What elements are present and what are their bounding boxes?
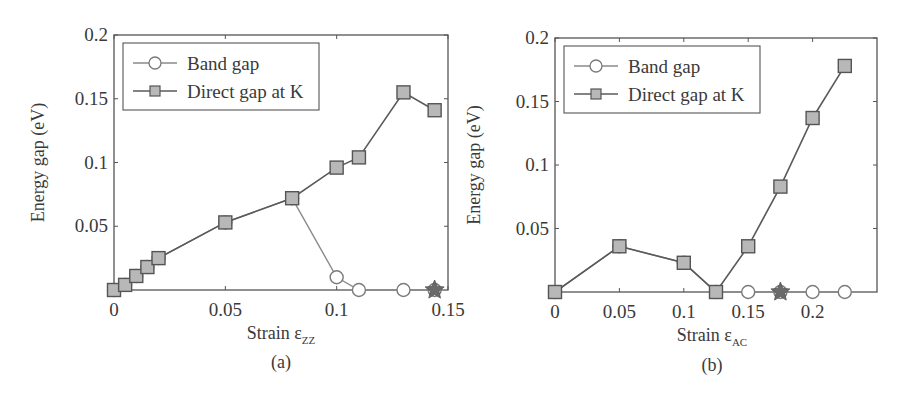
y-tick-label: 0.2: [84, 24, 108, 45]
chart-panel-a: 00.050.10.150.050.10.150.2Energy gap (eV…: [28, 24, 465, 373]
x-tick-label: 0.1: [325, 299, 349, 320]
legend-square-icon: [591, 89, 601, 99]
band-gap-point: [838, 286, 851, 299]
legend-label-direct-gap: Direct gap at K: [628, 84, 745, 105]
direct-gap-point: [838, 59, 851, 72]
direct-gap-point: [742, 240, 755, 253]
y-tick-label: 0.1: [84, 152, 108, 173]
y-tick-label: 0.05: [75, 215, 108, 236]
x-tick-label: 0.05: [603, 301, 636, 322]
x-tick-label: 0.1: [672, 301, 696, 322]
legend-label-direct-gap: Direct gap at K: [187, 81, 304, 102]
direct-gap-point: [549, 286, 562, 299]
direct-gap-point: [219, 216, 232, 229]
band-gap-point: [806, 286, 819, 299]
direct-gap-point: [330, 161, 343, 174]
band-gap-point: [330, 271, 343, 284]
band-gap-point: [742, 286, 755, 299]
band-gap-line: [114, 198, 435, 290]
direct-gap-point: [428, 104, 441, 117]
x-tick-label: 0.05: [209, 299, 242, 320]
x-axis-label-main: Strain ε: [247, 323, 302, 343]
y-axis-label: Energy gap (eV): [464, 105, 485, 225]
x-tick-label: 0.2: [801, 301, 825, 322]
band-gap-markers: [549, 240, 852, 299]
direct-gap-point: [774, 180, 787, 193]
y-tick-label: 0.15: [516, 91, 549, 112]
y-tick-label: 0.15: [75, 88, 108, 109]
direct-gap-point: [613, 240, 626, 253]
direct-gap-point: [352, 151, 365, 164]
legend-circle-icon: [590, 60, 602, 72]
direct-gap-point: [806, 112, 819, 125]
legend: Band gapDirect gap at K: [123, 43, 319, 110]
x-tick-label: 0: [550, 301, 560, 322]
x-axis-label-subscript: AC: [732, 336, 747, 348]
legend-label-band-gap: Band gap: [628, 56, 700, 77]
x-axis-label-main: Strain ε: [677, 325, 732, 345]
band-gap-point: [397, 284, 410, 297]
x-tick-label: 0.15: [431, 299, 464, 320]
y-axis-label: Energy gap (eV): [28, 103, 49, 223]
legend-circle-icon: [149, 57, 161, 69]
x-tick-label: 0.15: [732, 301, 765, 322]
direct-gap-point: [397, 86, 410, 99]
panel-caption: (b): [702, 355, 723, 376]
direct-gap-point: [677, 256, 690, 269]
x-tick-label: 0: [109, 299, 119, 320]
x-axis-label: Strain εZZ: [247, 323, 316, 346]
legend-label-band-gap: Band gap: [187, 53, 259, 74]
panel-caption: (a): [271, 352, 291, 373]
chart-panel-b: 00.050.10.150.20.050.10.150.2Energy gap …: [464, 27, 877, 376]
legend-square-icon: [150, 86, 160, 96]
band-gap-line: [555, 246, 845, 292]
x-axis-label-subscript: ZZ: [302, 334, 316, 346]
y-tick-label: 0.2: [525, 27, 549, 48]
figure-canvas: 00.050.10.150.050.10.150.2Energy gap (eV…: [0, 0, 920, 412]
band-gap-point: [352, 284, 365, 297]
band-gap-markers: [108, 192, 442, 297]
direct-gap-markers: [108, 86, 442, 297]
legend: Band gapDirect gap at K: [564, 46, 760, 113]
figure: 00.050.10.150.050.10.150.2Energy gap (eV…: [0, 0, 920, 412]
direct-gap-point: [286, 192, 299, 205]
direct-gap-point: [152, 252, 165, 265]
y-tick-label: 0.1: [525, 154, 549, 175]
direct-gap-point: [710, 286, 723, 299]
y-tick-label: 0.05: [516, 218, 549, 239]
x-axis-label: Strain εAC: [677, 325, 747, 348]
